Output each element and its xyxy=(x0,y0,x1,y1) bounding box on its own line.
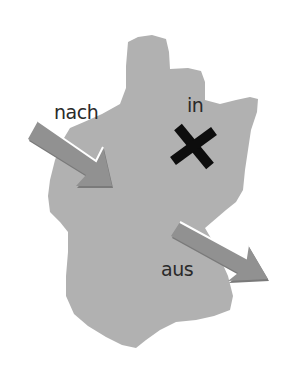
label-aus: aus xyxy=(161,260,193,279)
label-in: in xyxy=(187,96,203,115)
map-outline xyxy=(48,35,258,348)
label-nach: nach xyxy=(54,103,98,122)
map-diagram xyxy=(0,0,291,377)
diagram-canvas: nach in aus xyxy=(0,0,291,377)
